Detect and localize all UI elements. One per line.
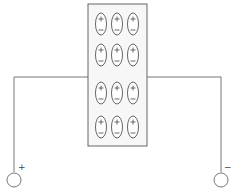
dipole — [96, 82, 107, 104]
dipole-outline — [96, 13, 107, 35]
positive-terminal-label: + — [18, 162, 26, 172]
dipole — [128, 116, 139, 138]
negative-terminal — [214, 173, 228, 187]
dipole-outline — [128, 82, 139, 104]
dipole — [112, 13, 123, 35]
positive-terminal — [7, 173, 21, 187]
dipole — [96, 116, 107, 138]
dipole — [96, 13, 107, 35]
dipole — [112, 82, 123, 104]
dipole — [96, 44, 107, 66]
dipole-outline — [128, 116, 139, 138]
capacitor-dielectric-diagram: + − — [0, 0, 232, 190]
dipole-outline — [96, 82, 107, 104]
dipole — [128, 13, 139, 35]
dipole-outline — [112, 116, 123, 138]
dipole-outline — [112, 44, 123, 66]
dipole — [128, 44, 139, 66]
dipole-outline — [112, 13, 123, 35]
dipole-outline — [128, 44, 139, 66]
dipole — [112, 44, 123, 66]
dipole-outline — [112, 82, 123, 104]
left-wire — [14, 77, 88, 172]
negative-terminal-label: − — [224, 162, 232, 172]
dipole-outline — [96, 116, 107, 138]
dipole — [128, 82, 139, 104]
dipole-outline — [96, 44, 107, 66]
dipole-outline — [128, 13, 139, 35]
right-wire — [147, 77, 221, 172]
dipole — [112, 116, 123, 138]
